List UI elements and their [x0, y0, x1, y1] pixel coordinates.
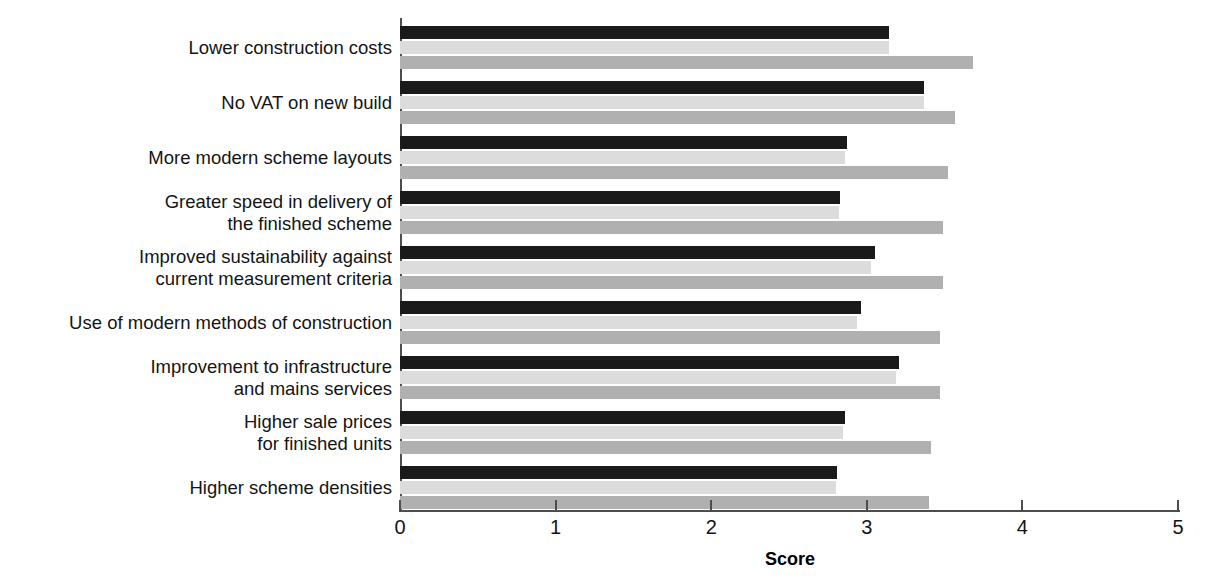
bar [400, 206, 839, 219]
category-label: Improved sustainability against current … [0, 246, 392, 290]
category-label: Higher sale prices for finished units [0, 411, 392, 455]
bar [400, 316, 857, 329]
category-label: More modern scheme layouts [0, 147, 392, 169]
x-axis-line [400, 510, 1180, 512]
bar [400, 221, 943, 234]
bar [400, 481, 836, 494]
x-axis-tick [866, 500, 868, 512]
x-axis-tick [1021, 500, 1023, 512]
bar [400, 96, 924, 109]
bar [400, 371, 896, 384]
category-label: Lower construction costs [0, 37, 392, 59]
bar [400, 136, 847, 149]
bar [400, 331, 940, 344]
horizontal-bar-chart: Lower construction costsNo VAT on new bu… [0, 0, 1216, 585]
bar [400, 151, 845, 164]
bar [400, 356, 899, 369]
category-label: Higher scheme densities [0, 477, 392, 499]
bar [400, 246, 875, 259]
bar [400, 276, 943, 289]
bar [400, 261, 871, 274]
x-axis-title: Score [400, 549, 1180, 570]
bar [400, 111, 955, 124]
x-axis-tick-label: 2 [691, 516, 731, 539]
x-axis-tick [399, 500, 401, 512]
x-axis-tick-label: 1 [536, 516, 576, 539]
x-axis-tick-label: 4 [1002, 516, 1042, 539]
x-axis-tick-label: 3 [847, 516, 887, 539]
bar [400, 191, 840, 204]
bar [400, 426, 843, 439]
bar [400, 466, 837, 479]
bar [400, 166, 948, 179]
bar [400, 386, 940, 399]
bar [400, 411, 845, 424]
bar [400, 496, 929, 509]
category-label: Greater speed in delivery of the finishe… [0, 191, 392, 235]
bar [400, 26, 889, 39]
bar [400, 41, 889, 54]
bar [400, 81, 924, 94]
plot-area [400, 18, 1178, 510]
x-axis-tick [710, 500, 712, 512]
category-label-column: Lower construction costsNo VAT on new bu… [0, 18, 392, 510]
bar [400, 56, 973, 69]
category-label: Use of modern methods of construction [0, 312, 392, 334]
category-label: No VAT on new build [0, 92, 392, 114]
category-label: Improvement to infrastructure and mains … [0, 356, 392, 400]
bar [400, 441, 931, 454]
x-axis-tick [555, 500, 557, 512]
bar [400, 301, 861, 314]
x-axis-tick [1177, 500, 1179, 512]
x-axis-tick-label: 0 [380, 516, 420, 539]
x-axis-tick-label: 5 [1158, 516, 1198, 539]
